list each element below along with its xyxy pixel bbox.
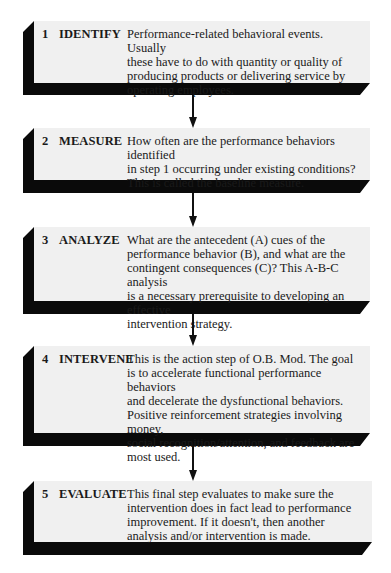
step-2-box: 2 MEASURE How often are the performance … <box>23 128 371 193</box>
step-label: ANALYZE <box>59 233 127 331</box>
step-description: This is the action step of O.B. Mod. The… <box>127 352 363 464</box>
down-arrow-icon <box>188 314 198 346</box>
step-description: Performance-related behavioral events. U… <box>127 27 363 97</box>
step-description: What are the antecedent (A) cues of the … <box>127 233 363 331</box>
step-number: 3 <box>42 233 59 331</box>
step-number: 2 <box>42 134 59 190</box>
step-number: 1 <box>42 27 59 97</box>
down-arrow-icon <box>188 193 198 227</box>
down-arrow-icon <box>188 446 198 481</box>
step-4-box: 4 INTERVENE This is the action step of O… <box>23 346 371 446</box>
step-number: 4 <box>42 352 59 464</box>
step-description: How often are the performance behaviors … <box>127 134 363 190</box>
step-label: EVALUATE <box>59 487 127 543</box>
step-1-box: 1 IDENTIFY Performance-related behaviora… <box>23 21 371 95</box>
step-label: IDENTIFY <box>59 27 127 97</box>
step-label: MEASURE <box>59 134 127 190</box>
step-description: This final step evaluates to make sure t… <box>127 487 363 543</box>
step-5-box: 5 EVALUATE This final step evaluates to … <box>23 481 371 555</box>
step-number: 5 <box>42 487 59 543</box>
step-3-box: 3 ANALYZE What are the antecedent (A) cu… <box>23 227 371 314</box>
down-arrow-icon <box>188 95 198 128</box>
step-label: INTERVENE <box>59 352 127 464</box>
